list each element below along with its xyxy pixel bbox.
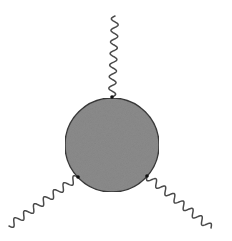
wavy-line-bottom-right — [147, 176, 212, 228]
vertex-dot-top — [110, 95, 114, 99]
wavy-line-bottom-left — [9, 176, 78, 228]
wavy-line-top — [109, 16, 118, 97]
diagram-canvas — [0, 0, 232, 241]
vertex-dot-bottom-right — [145, 174, 149, 178]
vertex-dot-bottom-left — [76, 175, 80, 179]
feynman-diagram — [0, 0, 232, 241]
